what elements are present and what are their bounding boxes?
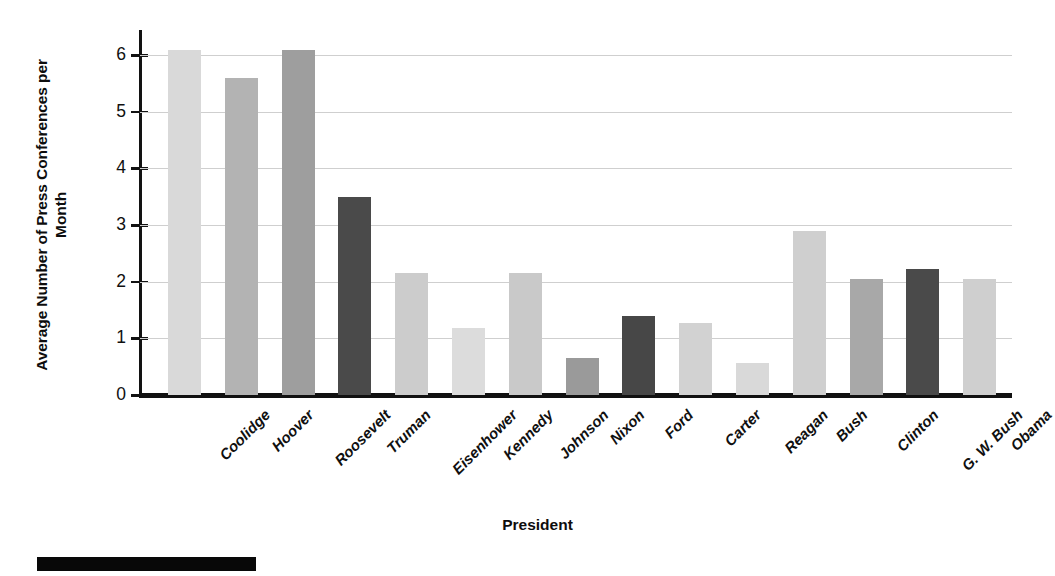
bar[interactable] xyxy=(736,363,769,395)
x-tick-label[interactable]: Johnson xyxy=(556,406,612,462)
y-axis-title: Average Number of Press Conferences per … xyxy=(33,45,71,385)
x-tick-label[interactable]: Roosevelt xyxy=(331,406,394,469)
x-axis-title-text: President xyxy=(502,516,573,534)
caption-block xyxy=(37,557,256,571)
x-tick-label[interactable]: Bush xyxy=(832,406,871,445)
x-tick-label[interactable]: Coolidge xyxy=(215,406,272,463)
bar[interactable] xyxy=(282,50,315,396)
x-axis-title: President xyxy=(0,516,1047,534)
bar[interactable] xyxy=(622,316,655,395)
x-tick-label[interactable]: Clinton xyxy=(893,406,942,455)
bar[interactable] xyxy=(793,231,826,395)
y-tick-label: 5 xyxy=(100,103,126,121)
x-tick-label[interactable]: Reagan xyxy=(780,406,830,456)
x-tick-label[interactable]: Carter xyxy=(721,406,764,449)
y-tick-label: 0 xyxy=(100,386,126,404)
x-tick-label[interactable]: Hoover xyxy=(268,406,317,455)
bar[interactable] xyxy=(452,328,485,395)
x-tick-label[interactable]: Nixon xyxy=(606,406,647,447)
y-tick-label: 1 xyxy=(100,330,126,348)
bar[interactable] xyxy=(679,323,712,395)
bar[interactable] xyxy=(850,279,883,395)
bar[interactable] xyxy=(395,273,428,395)
bar[interactable] xyxy=(963,279,996,395)
gridline xyxy=(140,112,1012,113)
bar[interactable] xyxy=(509,273,542,395)
x-tick-label[interactable]: Ford xyxy=(661,406,697,442)
y-tick-label: 3 xyxy=(100,216,126,234)
gridline xyxy=(140,225,1012,226)
y-tick-label: 2 xyxy=(100,273,126,291)
bar[interactable] xyxy=(225,78,258,395)
gridline xyxy=(140,168,1012,169)
y-tick-label: 4 xyxy=(100,160,126,178)
bar[interactable] xyxy=(168,50,201,396)
plot-area xyxy=(140,41,1012,395)
bar[interactable] xyxy=(566,358,599,395)
y-tick-label: 6 xyxy=(100,46,126,64)
bar[interactable] xyxy=(906,269,939,395)
gridline xyxy=(140,55,1012,56)
bar[interactable] xyxy=(338,197,371,395)
